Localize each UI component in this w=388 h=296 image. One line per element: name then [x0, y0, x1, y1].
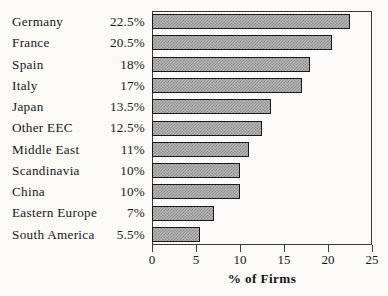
category-label-row: Scandinavia10% [0, 160, 148, 181]
bar [152, 142, 249, 157]
category-label-row: Germany22.5% [0, 11, 148, 32]
bar [152, 14, 350, 29]
tick-label: 10 [234, 252, 247, 268]
category-value-label: 18% [120, 54, 145, 75]
bar [152, 163, 240, 178]
tick-label: 0 [149, 252, 156, 268]
category-name: Germany [12, 11, 63, 32]
category-label-row: France20.5% [0, 32, 148, 53]
bar [152, 206, 214, 221]
bar [152, 35, 332, 50]
tick-mark [196, 245, 197, 252]
category-name: Scandinavia [12, 160, 80, 181]
category-name: Japan [12, 96, 44, 117]
category-value-label: 5.5% [117, 224, 145, 245]
category-name: Italy [12, 75, 38, 96]
plot-area [152, 11, 372, 245]
category-value-label: 22.5% [110, 11, 145, 32]
category-label-row: Italy17% [0, 75, 148, 96]
bar [152, 99, 271, 114]
category-value-label: 20.5% [110, 32, 145, 53]
bar [152, 184, 240, 199]
category-value-label: 10% [120, 181, 145, 202]
tick-mark [152, 245, 153, 252]
category-label-row: South America5.5% [0, 224, 148, 245]
tick-mark [284, 245, 285, 252]
category-label-row: Spain18% [0, 54, 148, 75]
tick-label: 5 [193, 252, 200, 268]
bar [152, 78, 302, 93]
tick-label: 20 [322, 252, 335, 268]
category-name: China [12, 181, 45, 202]
category-name: Eastern Europe [12, 202, 97, 223]
horizontal-bar-chart: Germany22.5%France20.5%Spain18%Italy17%J… [0, 0, 388, 296]
tick-mark [372, 245, 373, 252]
category-name: Spain [12, 54, 44, 75]
bar [152, 121, 262, 136]
category-value-label: 7% [127, 202, 145, 223]
category-label-row: China10% [0, 181, 148, 202]
tick-label: 15 [278, 252, 291, 268]
tick-label: 25 [366, 252, 379, 268]
bar [152, 57, 310, 72]
category-value-label: 17% [120, 75, 145, 96]
category-name: France [12, 32, 50, 53]
category-label-row: Middle East11% [0, 139, 148, 160]
category-value-label: 12.5% [110, 117, 145, 138]
tick-mark [240, 245, 241, 252]
category-value-label: 10% [120, 160, 145, 181]
category-name: Other EEC [12, 117, 73, 138]
category-label-column: Germany22.5%France20.5%Spain18%Italy17%J… [0, 11, 148, 245]
tick-mark [328, 245, 329, 252]
category-value-label: 11% [121, 139, 145, 160]
category-value-label: 13.5% [110, 96, 145, 117]
category-name: Middle East [12, 139, 79, 160]
category-label-row: Japan13.5% [0, 96, 148, 117]
x-axis-tick-labels: 0510152025 [0, 252, 388, 270]
category-label-row: Other EEC12.5% [0, 117, 148, 138]
category-name: South America [12, 224, 95, 245]
x-axis-title: % of Firms [152, 271, 372, 287]
bar [152, 227, 200, 242]
category-label-row: Eastern Europe7% [0, 202, 148, 223]
